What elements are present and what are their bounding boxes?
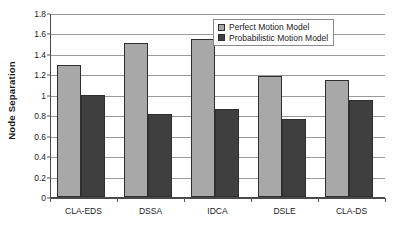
y-axis-title: Node Separation xyxy=(0,0,22,200)
bar xyxy=(282,119,306,197)
y-axis-tick-label: 0.6 xyxy=(34,132,46,142)
x-axis-tick-mark xyxy=(117,198,118,202)
x-axis-tick-mark xyxy=(318,198,319,202)
x-axis-tick-mark xyxy=(251,198,252,202)
y-axis-tick-label: 1.6 xyxy=(34,29,46,39)
bar xyxy=(81,95,105,197)
y-axis-tick-label: 1.2 xyxy=(34,70,46,80)
bar xyxy=(215,109,239,197)
x-axis-tick-mark xyxy=(385,198,386,202)
bar xyxy=(57,65,81,197)
x-axis-tick-label: DSLE xyxy=(273,206,295,216)
y-axis-tick-label: 0 xyxy=(41,193,46,203)
x-axis-tick-mark xyxy=(184,198,185,202)
bar xyxy=(258,76,282,197)
y-axis-tick-label: 1 xyxy=(41,91,46,101)
x-axis-tick-label: DSSA xyxy=(139,206,162,216)
bar-group xyxy=(51,14,118,197)
bar xyxy=(148,114,172,197)
bar xyxy=(124,43,148,197)
legend-item: Perfect Motion Model xyxy=(218,23,328,32)
legend-swatch-icon xyxy=(218,34,225,41)
y-axis-tick-label: 0.8 xyxy=(34,111,46,121)
bar xyxy=(349,100,373,197)
y-axis-tick-label: 0.2 xyxy=(34,173,46,183)
x-axis-tick-mark xyxy=(50,198,51,202)
y-axis-title-label: Node Separation xyxy=(6,61,17,140)
y-axis-tick-labels: 1.81.61.41.210.80.60.40.20 xyxy=(22,14,50,198)
bar xyxy=(325,80,349,197)
y-axis-tick-label: 1.4 xyxy=(34,50,46,60)
legend-swatch-icon xyxy=(218,24,225,31)
legend-item: Probabilistic Motion Model xyxy=(218,34,328,43)
x-axis-tick-label: IDCA xyxy=(207,206,227,216)
bar-chart: Node Separation 1.81.61.41.210.80.60.40.… xyxy=(0,0,407,233)
chart-legend: Perfect Motion ModelProbabilistic Motion… xyxy=(213,19,334,46)
legend-label: Perfect Motion Model xyxy=(229,23,309,32)
legend-label: Probabilistic Motion Model xyxy=(229,34,328,43)
bar-group xyxy=(118,14,185,197)
bar xyxy=(191,39,215,197)
y-axis-tick-label: 0.4 xyxy=(34,152,46,162)
x-axis-tick-label: CLA-EDS xyxy=(65,206,102,216)
x-axis-tick-labels: CLA-EDSDSSAIDCADSLECLA-DS xyxy=(50,198,385,233)
y-axis-tick-label: 1.8 xyxy=(34,9,46,19)
x-axis-tick-label: CLA-DS xyxy=(336,206,367,216)
